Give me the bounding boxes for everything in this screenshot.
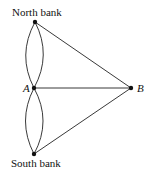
- edge-a-south-left: [26, 88, 35, 154]
- edge-north-b: [35, 22, 131, 88]
- label-b: B: [137, 82, 144, 94]
- label-a: A: [22, 82, 30, 94]
- bridges-graph: North bank A B South bank: [0, 0, 151, 170]
- node-north-bank: [33, 20, 37, 24]
- edges: [26, 22, 132, 154]
- edge-south-b: [34, 88, 131, 154]
- node-south-bank: [32, 152, 36, 156]
- label-south-bank: South bank: [11, 157, 61, 169]
- label-north-bank: North bank: [12, 6, 62, 18]
- node-b: [129, 86, 133, 90]
- edge-north-a-right: [34, 22, 43, 88]
- edge-north-a-left: [26, 22, 35, 88]
- edge-a-south-right: [34, 88, 43, 154]
- node-a: [32, 86, 36, 90]
